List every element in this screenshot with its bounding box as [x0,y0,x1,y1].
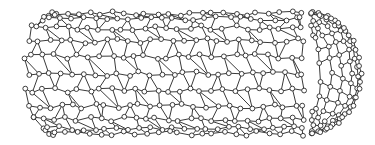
nanotube-illustration [0,0,375,145]
nanotube-drawing [0,0,375,145]
nanotube-body [22,9,306,138]
nanotube-end-cap [309,9,364,135]
